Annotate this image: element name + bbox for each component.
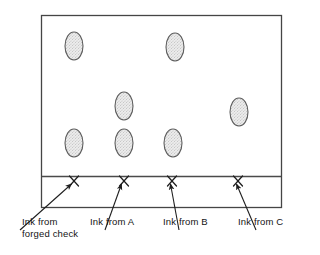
ink-spot-4 — [230, 98, 248, 126]
label-ink-from-c: Ink from C — [238, 216, 283, 228]
ink-spot-1 — [65, 32, 83, 60]
label-ink-from-b: Ink from B — [163, 216, 208, 228]
label-forged-check-line1: Ink from — [22, 216, 58, 227]
ink-spot-7 — [164, 129, 182, 157]
ink-spot-3 — [115, 92, 133, 120]
label-ink-from-forged-check: Ink from forged check — [22, 216, 78, 239]
label-forged-check-line2: forged check — [22, 228, 78, 240]
ink-spot-5 — [65, 129, 83, 157]
label-ink-from-a: Ink from A — [90, 216, 134, 228]
ink-spot-6 — [115, 129, 133, 157]
ink-spot-2 — [166, 33, 184, 61]
